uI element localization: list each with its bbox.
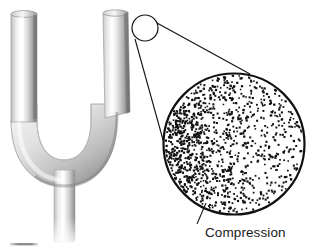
molecule-dot: [214, 192, 216, 194]
molecule-dot: [232, 202, 234, 204]
molecule-dot: [241, 85, 243, 87]
molecule-dot: [175, 178, 177, 180]
molecule-dot: [218, 161, 220, 163]
molecule-dot: [233, 102, 235, 104]
molecule-dot: [242, 193, 244, 195]
molecule-dot: [189, 168, 191, 170]
molecule-dot: [298, 126, 300, 128]
molecule-dot: [229, 88, 231, 90]
molecule-dot: [210, 193, 212, 195]
molecule-dot: [220, 136, 222, 138]
molecule-dot: [223, 113, 225, 115]
molecule-dot: [179, 155, 181, 157]
molecule-dot: [250, 161, 252, 163]
molecule-dot: [226, 112, 228, 114]
molecule-dot: [283, 106, 285, 108]
molecule-dot: [201, 191, 203, 193]
molecule-dot: [252, 140, 254, 142]
molecule-dot: [219, 173, 221, 175]
molecule-dot: [200, 128, 202, 130]
molecule-dot: [238, 107, 240, 109]
molecule-dot: [234, 86, 236, 88]
molecule-dot: [249, 177, 251, 179]
molecule-dot: [236, 158, 238, 160]
molecule-dot: [189, 118, 191, 120]
molecule-dot: [166, 156, 168, 158]
molecule-dot: [223, 148, 225, 150]
molecule-dot: [187, 163, 189, 165]
molecule-dot: [268, 190, 270, 192]
molecule-dot: [249, 101, 251, 103]
molecule-dot: [293, 148, 295, 150]
compression-label: Compression: [205, 225, 286, 240]
molecule-dot: [192, 119, 194, 121]
molecule-dot: [217, 113, 219, 115]
molecule-dot: [169, 164, 171, 166]
molecule-dot: [182, 147, 184, 149]
molecule-dot: [175, 129, 177, 131]
molecule-dot: [211, 140, 213, 142]
molecule-dot: [211, 168, 213, 170]
molecule-dot: [189, 176, 191, 178]
molecule-dot: [175, 154, 177, 156]
molecule-dot: [229, 207, 231, 209]
molecule-dot: [199, 135, 201, 137]
molecule-dot: [168, 122, 170, 124]
molecule-dot: [214, 138, 216, 140]
molecule-dot: [197, 136, 199, 138]
molecule-dot: [203, 110, 205, 112]
molecule-dot: [281, 118, 283, 120]
molecule-dot: [176, 147, 178, 149]
molecule-dot: [254, 125, 256, 127]
molecule-dot: [217, 194, 219, 196]
molecule-dot: [179, 178, 181, 180]
molecule-dot: [296, 164, 298, 166]
molecule-dot: [194, 188, 196, 190]
molecule-dot: [247, 142, 249, 144]
molecule-dot: [186, 186, 188, 188]
molecule-dot: [225, 202, 227, 204]
molecule-dot: [186, 114, 188, 116]
molecule-dot: [223, 76, 225, 78]
molecule-dot: [294, 167, 296, 169]
molecule-dot: [173, 173, 175, 175]
molecule-dot: [214, 99, 216, 101]
molecule-dot: [251, 91, 253, 93]
molecule-dot: [191, 179, 193, 181]
molecule-dot: [271, 190, 273, 192]
molecule-dot: [273, 193, 275, 195]
molecule-dot: [212, 108, 214, 110]
molecule-dot: [179, 138, 181, 140]
molecule-dot: [183, 117, 185, 119]
molecule-dot: [175, 158, 177, 160]
molecule-dot: [220, 94, 222, 96]
molecule-dot: [293, 118, 295, 120]
molecule-dot: [230, 85, 232, 87]
molecule-dot: [201, 197, 203, 199]
molecule-dot: [290, 178, 292, 180]
molecule-dot: [197, 92, 199, 94]
molecule-dot: [228, 201, 230, 203]
molecule-dot: [196, 166, 198, 168]
molecule-dot: [183, 162, 185, 164]
molecule-dot: [200, 111, 202, 113]
molecule-dot: [274, 190, 276, 192]
molecule-dot: [265, 144, 267, 146]
molecule-dot: [172, 148, 174, 150]
molecule-dot: [233, 131, 235, 133]
molecule-dot: [180, 106, 182, 108]
molecule-dot: [204, 190, 206, 192]
molecule-dot: [197, 170, 199, 172]
molecule-dot: [264, 155, 266, 157]
molecule-dot: [231, 111, 233, 113]
molecule-dot: [186, 161, 188, 163]
molecule-dot: [198, 128, 200, 130]
molecule-dot: [202, 117, 204, 119]
molecule-dot: [192, 190, 194, 192]
molecule-dot: [216, 152, 218, 154]
molecule-dot: [238, 114, 240, 116]
molecule-dot: [177, 130, 179, 132]
molecule-dot: [208, 192, 210, 194]
molecule-dot: [263, 99, 265, 101]
molecule-dot: [240, 171, 242, 173]
